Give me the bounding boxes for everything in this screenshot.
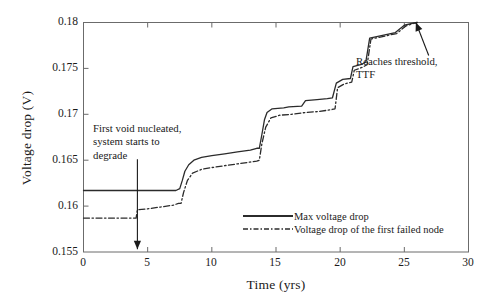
x-tick-label: 15: [255, 256, 295, 268]
annotation-line: system starts to: [93, 135, 181, 148]
y-tick-label: 0.175: [30, 61, 78, 73]
x-tick-label: 5: [127, 256, 167, 268]
annotation-reaches-threshold: Reaches threshold, TTF: [356, 55, 438, 82]
x-tick-label: 30: [448, 256, 488, 268]
legend-entry-first-failed-node: Voltage drop of the first failed node: [294, 224, 444, 235]
annotation-line: Reaches threshold,: [356, 55, 438, 68]
voltage-drop-chart-figure: Voltage drop (V) Time (yrs) 0.18 0.175 0…: [0, 0, 497, 303]
y-tick-label: 0.18: [30, 15, 78, 27]
annotation-line: TTF: [356, 68, 438, 81]
annotation-line: First void nucleated,: [93, 122, 181, 135]
y-tick-label: 0.165: [30, 153, 78, 165]
annotation-first-void: First void nucleated, system starts to d…: [93, 122, 181, 162]
x-tick-label: 20: [320, 256, 360, 268]
y-axis-title: Voltage drop (V): [19, 78, 35, 198]
x-axis-title: Time (yrs): [83, 277, 469, 293]
x-tick-label: 0: [63, 256, 103, 268]
x-tick-label: 10: [191, 256, 231, 268]
y-tick-label: 0.16: [30, 199, 78, 211]
x-tick-label: 25: [384, 256, 424, 268]
y-tick-label: 0.17: [30, 107, 78, 119]
legend-entry-max-voltage-drop: Max voltage drop: [294, 211, 369, 222]
annotation-line: degrade: [93, 149, 181, 162]
